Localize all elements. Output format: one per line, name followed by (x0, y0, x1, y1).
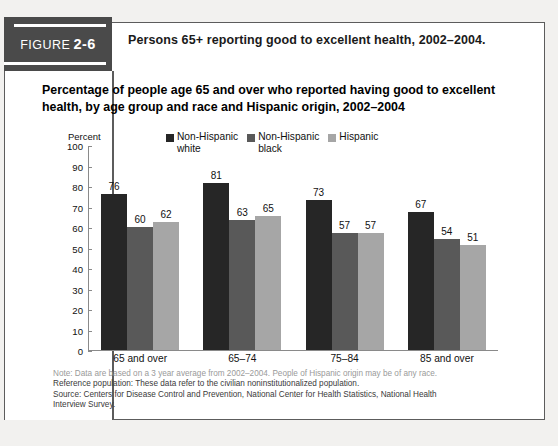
bar-group: 76606265 and over (89, 146, 191, 350)
x-axis-line (88, 350, 498, 352)
legend-label: Hispanic (339, 131, 378, 143)
bar (434, 239, 460, 350)
bar-value-label: 67 (415, 199, 426, 210)
bar-value-label: 62 (161, 209, 172, 220)
figure-badge-number: 2-6 (73, 36, 95, 52)
x-axis-group-label: 85 and over (420, 353, 474, 364)
y-axis-tick-label: 20 (57, 305, 83, 316)
bar-column: 62 (153, 146, 179, 350)
figure-footnotes: Note: Data are based on a 3 year average… (53, 369, 523, 411)
bar-column: 51 (460, 146, 486, 350)
bar (255, 216, 281, 349)
bar-value-label: 57 (339, 220, 350, 231)
y-axis-tick-label: 0 (57, 346, 83, 357)
bar-group: 67545185 and over (396, 146, 498, 350)
bar (408, 212, 434, 349)
bar (127, 227, 153, 350)
bar-groups: 76606265 and over81636565–7473575775–846… (89, 146, 498, 350)
bar-column: 81 (203, 146, 229, 350)
figure-badge-prefix: FIGURE (20, 38, 70, 52)
x-axis-group-label: 75–84 (330, 353, 358, 364)
x-axis-group-label: 65 and over (113, 353, 167, 364)
y-axis-tick-label: 80 (57, 182, 83, 193)
bar (229, 220, 255, 349)
bar-value-label: 73 (313, 187, 324, 198)
bar-group: 81636565–74 (191, 146, 293, 350)
x-axis-group-label: 65–74 (228, 353, 256, 364)
figure-caption: Persons 65+ reporting good to excellent … (128, 33, 528, 47)
bar-value-label: 81 (211, 170, 222, 181)
bar (358, 233, 384, 350)
y-axis-tick-label: 70 (57, 202, 83, 213)
legend-swatch-icon (247, 134, 255, 142)
footnote-note: Note: Data are based on a 3 year average… (53, 369, 523, 379)
bar-column: 73 (306, 146, 332, 350)
y-axis-tick-label: 40 (57, 264, 83, 275)
bar-column: 65 (255, 146, 281, 350)
bar (332, 233, 358, 350)
figure-root: FIGURE2-6 Persons 65+ reporting good to … (0, 0, 558, 446)
plot-inner: 1009080706050403020100 76606265 and over… (88, 146, 498, 351)
legend-item: Hispanic (328, 131, 378, 143)
bar (460, 245, 486, 350)
badge-rule-bottom (4, 62, 106, 65)
bar-value-label: 63 (237, 207, 248, 218)
figure-number-badge: FIGURE2-6 (4, 17, 112, 71)
bar-value-label: 57 (365, 220, 376, 231)
bar-column: 76 (101, 146, 127, 350)
bar-column: 57 (332, 146, 358, 350)
footnote-reference-population: Reference population: These data refer t… (53, 379, 523, 389)
bar-column: 60 (127, 146, 153, 350)
chart-plot-area: 1009080706050403020100 76606265 and over… (88, 146, 498, 351)
bar (203, 183, 229, 349)
bar-column: 63 (229, 146, 255, 350)
bar-value-label: 65 (263, 203, 274, 214)
bar (101, 194, 127, 350)
chart-title: Percentage of people age 65 and over who… (42, 82, 512, 115)
bar (153, 222, 179, 349)
y-axis-tick-label: 10 (57, 325, 83, 336)
legend-swatch-icon (328, 134, 336, 142)
bar-group: 73575775–84 (294, 146, 396, 350)
footnote-source-continued: Interview Survey. (53, 400, 523, 410)
legend-swatch-icon (166, 134, 174, 142)
footnote-source: Source: Centers for Disease Control and … (53, 390, 523, 400)
bar-column: 54 (434, 146, 460, 350)
bar-value-label: 54 (441, 226, 452, 237)
figure-number-text: FIGURE2-6 (20, 36, 96, 52)
y-axis-tick-label: 50 (57, 243, 83, 254)
bar-value-label: 51 (467, 232, 478, 243)
y-axis-tick-mark (88, 351, 92, 352)
y-axis-tick-label: 100 (57, 141, 83, 152)
bar-column: 67 (408, 146, 434, 350)
y-axis-tick-label: 30 (57, 284, 83, 295)
bar-column: 57 (358, 146, 384, 350)
y-axis-tick-label: 60 (57, 223, 83, 234)
y-axis-tick-label: 90 (57, 161, 83, 172)
badge-rule-top (14, 24, 106, 27)
bar-value-label: 60 (135, 214, 146, 225)
bar-value-label: 76 (109, 181, 120, 192)
bar (306, 200, 332, 350)
